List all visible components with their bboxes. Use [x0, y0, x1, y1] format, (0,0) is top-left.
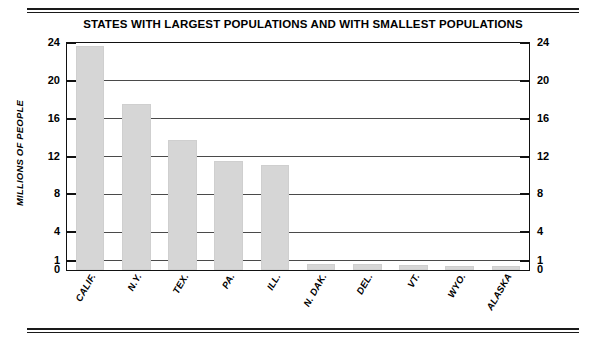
y-axis-tick-mark-right: [520, 156, 529, 158]
y-axis-tick-label-right: 16: [537, 113, 549, 124]
bar: [122, 104, 151, 270]
x-axis-tick-label: ALASKA: [484, 271, 514, 312]
y-axis-tick-label-right: 20: [537, 75, 549, 86]
y-axis-tick-label-left: 16: [48, 113, 60, 124]
y-axis-tick-mark-right: [520, 231, 529, 233]
x-axis-tick-label: WYO.: [445, 271, 468, 299]
chart-figure: STATES WITH LARGEST POPULATIONS AND WITH…: [0, 0, 606, 347]
y-axis-tick-mark-left: [67, 42, 76, 44]
y-axis-tick-label-left: 12: [48, 151, 60, 162]
bar: [399, 265, 428, 270]
x-axis-tick-label: ILL.: [264, 271, 282, 292]
chart-title: STATES WITH LARGEST POPULATIONS AND WITH…: [0, 18, 606, 30]
top-double-rule: [27, 8, 579, 13]
y-axis-tick-mark-right: [520, 193, 529, 195]
bottom-double-rule: [27, 328, 579, 333]
y-axis-tick-label-left: 24: [48, 37, 60, 48]
x-axis-tick-labels: CALIF.N.Y.TEX.PA.ILL.N. DAK.DEL.VT.WYO.A…: [66, 274, 530, 324]
y-axis-tick-label-left: 20: [48, 75, 60, 86]
y-axis-tick-label-left: 1: [54, 255, 60, 266]
x-axis-tick-label: VT.: [404, 271, 421, 289]
y-axis-tick-mark-left: [67, 193, 76, 195]
y-axis-tick-mark-left: [67, 231, 76, 233]
x-axis-tick-label: N. DAK.: [301, 271, 329, 308]
y-axis-tick-mark-left: [67, 118, 76, 120]
x-axis-tick-label: N.Y.: [125, 271, 144, 292]
y-axis-tick-label-right: 4: [537, 226, 543, 237]
bar: [76, 46, 105, 270]
bar: [214, 161, 243, 270]
bars-layer: [67, 43, 529, 270]
plot-area: 001144881212161620202424: [66, 42, 530, 271]
bar: [353, 264, 382, 270]
y-axis-tick-mark-right: [520, 260, 529, 262]
bar: [445, 266, 474, 270]
y-axis-tick-mark-right: [520, 118, 529, 120]
y-axis-tick-mark-right: [520, 42, 529, 44]
x-axis-tick-label: TEX.: [170, 271, 190, 295]
y-axis-tick-label-right: 1: [537, 255, 543, 266]
bar: [492, 266, 521, 270]
y-axis-tick-label-left: 4: [54, 226, 60, 237]
y-axis-tick-mark-left: [67, 260, 76, 262]
y-axis-tick-label-right: 0: [537, 264, 543, 275]
bar: [168, 140, 197, 270]
y-axis-tick-label-right: 8: [537, 188, 543, 199]
y-axis-tick-mark-left: [67, 80, 76, 82]
y-axis-tick-label-left: 8: [54, 188, 60, 199]
x-axis-tick-label: PA.: [219, 271, 236, 290]
bar: [307, 264, 336, 270]
y-axis-tick-mark-right: [520, 80, 529, 82]
x-axis-tick-label: CALIF.: [73, 271, 98, 303]
y-axis-tick-label-left: 0: [54, 264, 60, 275]
y-axis-tick-mark-left: [67, 156, 76, 158]
y-axis-tick-label-right: 24: [537, 37, 549, 48]
rule-line-thin: [27, 12, 579, 13]
y-axis-title: MILLIONS OF PEOPLE: [14, 100, 25, 206]
bar: [261, 165, 290, 270]
x-axis-tick-label: DEL.: [354, 271, 375, 296]
rule-line-thin: [27, 332, 579, 333]
y-axis-tick-label-right: 12: [537, 151, 549, 162]
